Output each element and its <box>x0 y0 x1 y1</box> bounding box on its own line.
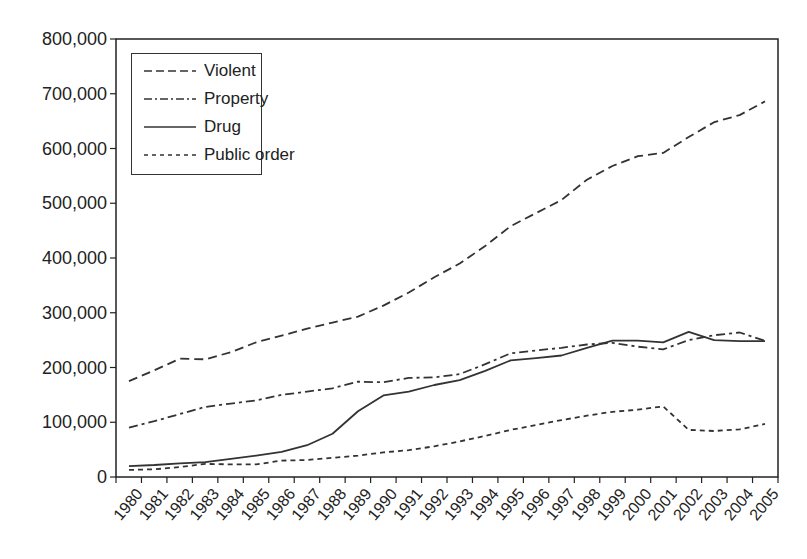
legend-item-public-order: Public order <box>144 144 295 166</box>
solid-line-icon <box>144 124 196 130</box>
y-tick-label: 600,000 <box>42 139 107 159</box>
x-tick-label: 2005 <box>746 485 782 523</box>
legend: Violent Property Drug Public order <box>131 53 262 175</box>
y-tick-label: 300,000 <box>42 303 107 323</box>
x-axis: 1980198119821983198419851986198719881989… <box>110 477 782 523</box>
y-tick-label: 200,000 <box>42 358 107 378</box>
series-property <box>129 333 765 428</box>
dash-dot-line-icon <box>144 96 196 102</box>
legend-item-violent: Violent <box>144 60 256 82</box>
dotted-line-icon <box>144 152 196 158</box>
legend-label: Property <box>204 89 268 109</box>
line-chart: 0100,000200,000300,000400,000500,000600,… <box>0 0 807 559</box>
dashed-line-icon <box>144 68 196 74</box>
y-tick-label: 0 <box>97 467 107 487</box>
legend-item-drug: Drug <box>144 116 241 138</box>
y-tick-label: 500,000 <box>42 193 107 213</box>
legend-label: Violent <box>204 61 256 81</box>
y-tick-label: 400,000 <box>42 248 107 268</box>
y-tick-label: 100,000 <box>42 412 107 432</box>
y-axis: 0100,000200,000300,000400,000500,000600,… <box>42 29 116 487</box>
y-tick-label: 800,000 <box>42 29 107 49</box>
legend-label: Drug <box>204 117 241 137</box>
legend-item-property: Property <box>144 88 268 110</box>
legend-label: Public order <box>204 145 295 165</box>
series-drug <box>129 332 765 466</box>
y-tick-label: 700,000 <box>42 84 107 104</box>
